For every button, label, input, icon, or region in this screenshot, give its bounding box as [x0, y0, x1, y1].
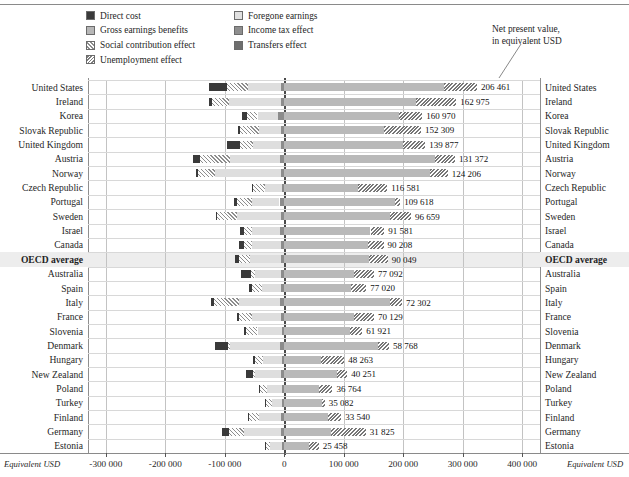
- bar-segment-social-contribution-effect: [249, 413, 259, 421]
- bar-segment-gross-earnings-benefits: [284, 141, 403, 149]
- bar-value-label: 25 458: [323, 442, 348, 451]
- chart-legend: Direct cost Gross earnings benefits Soci…: [86, 9, 506, 67]
- bar-segment-social-contribution-effect: [266, 442, 270, 450]
- bar-segment-direct-cost: [259, 385, 261, 393]
- country-label-right: Korea: [545, 111, 568, 121]
- axis-tick: [463, 453, 464, 457]
- axis-tick: [225, 453, 226, 457]
- row-separator: [88, 381, 540, 382]
- bar-segment-foregone-earnings: [272, 399, 282, 407]
- country-label-left: Czech Republic: [0, 183, 83, 193]
- country-label-left: Poland: [0, 384, 83, 394]
- country-label-right: Norway: [545, 169, 576, 179]
- bar-segment-social-contribution-effect: [260, 385, 267, 393]
- axis-tick-label: 400 000: [482, 459, 562, 469]
- bar-value-label: 91 581: [388, 227, 413, 236]
- bar-value-label: 40 251: [351, 370, 376, 379]
- bar-segment-foregone-earnings: [258, 327, 282, 335]
- bar-segment-direct-cost: [253, 356, 255, 364]
- bar-segment-unemployment-effect: [350, 327, 362, 335]
- bar-segment-social-contribution-effect: [252, 284, 263, 292]
- country-label-right: Germany: [545, 427, 581, 437]
- bar-segment-foregone-earnings: [239, 298, 280, 306]
- legend-label: Direct cost: [100, 11, 141, 21]
- bar-segment-unemployment-effect: [351, 284, 366, 292]
- top-divider: [0, 4, 629, 5]
- legend-item-social-contribution-effect: Social contribution effect: [86, 38, 195, 52]
- bar-value-label: 152 309: [425, 126, 454, 135]
- axis-tick: [165, 453, 166, 457]
- bar-segment-gross-earnings-benefits: [284, 126, 384, 134]
- country-label-right: France: [545, 312, 571, 322]
- country-label-right: Portugal: [545, 197, 578, 207]
- bar-segment-unemployment-effect: [435, 155, 455, 163]
- bar-segment-direct-cost: [227, 141, 239, 149]
- bar-segment-direct-cost: [209, 83, 226, 91]
- country-label-right: Denmark: [545, 341, 581, 351]
- bar-segment-unemployment-effect: [354, 270, 374, 278]
- bar-segment-foregone-earnings: [265, 184, 282, 192]
- chart-root: Direct cost Gross earnings benefits Soci…: [0, 0, 629, 477]
- row-separator: [88, 80, 540, 81]
- country-label-left: Turkey: [0, 398, 83, 408]
- bar-value-label: 70 129: [378, 313, 403, 322]
- bar-segment-direct-cost: [196, 169, 198, 177]
- bar-segment-social-contribution-effect: [266, 399, 271, 407]
- bar-segment-unemployment-effect: [337, 370, 348, 378]
- country-label-right: Australia: [545, 269, 580, 279]
- row-separator: [88, 324, 540, 325]
- bar-segment-direct-cost: [237, 313, 239, 321]
- country-label-left: Finland: [0, 413, 83, 423]
- country-label-right: Finland: [545, 413, 574, 423]
- bar-segment-unemployment-effect: [444, 83, 477, 91]
- row-separator: [88, 238, 540, 239]
- country-label-right: Spain: [545, 284, 567, 294]
- bar-segment-social-contribution-effect: [228, 342, 230, 350]
- bar-segment-social-contribution-effect: [227, 83, 248, 91]
- bar-segment-gross-earnings-benefits: [284, 112, 399, 120]
- row-separator: [88, 252, 540, 253]
- bar-segment-gross-earnings-benefits: [284, 212, 390, 220]
- bar-segment-direct-cost: [234, 198, 237, 206]
- bar-segment-direct-cost: [242, 112, 247, 120]
- bar-segment-social-contribution-effect: [253, 370, 255, 378]
- country-label-right: United States: [545, 83, 596, 93]
- country-label-left: Estonia: [0, 441, 83, 451]
- country-label-right: United Kingdom: [545, 140, 610, 150]
- bar-segment-foregone-earnings: [262, 284, 281, 292]
- bar-segment-gross-earnings-benefits: [284, 370, 336, 378]
- legend-item-direct-cost: Direct cost: [86, 9, 195, 23]
- bar-segment-social-contribution-effect: [244, 241, 252, 249]
- bar-segment-gross-earnings-benefits: [284, 169, 430, 177]
- bar-value-label: 58 768: [393, 342, 418, 351]
- bar-segment-social-contribution-effect: [200, 155, 230, 163]
- gross-earnings-benefits-swatch-icon: [86, 26, 95, 35]
- bar-segment-direct-cost: [265, 442, 266, 450]
- bar-segment-unemployment-effect: [328, 413, 342, 421]
- country-label-right: Czech Republic: [545, 183, 606, 193]
- country-label-left: OECD average: [0, 255, 83, 265]
- bar-segment-foregone-earnings: [252, 241, 281, 249]
- bar-segment-gross-earnings-benefits: [284, 255, 368, 263]
- bar-segment-foregone-earnings: [215, 169, 280, 177]
- bar-value-label: 48 263: [348, 356, 373, 365]
- bar-segment-gross-earnings-benefits: [284, 342, 378, 350]
- bar-segment-unemployment-effect: [378, 342, 389, 350]
- bar-segment-gross-earnings-benefits: [284, 327, 349, 335]
- bar-segment-unemployment-effect: [403, 141, 425, 149]
- country-label-left: Austria: [0, 154, 83, 164]
- bar-value-label: 109 618: [404, 198, 433, 207]
- bar-segment-gross-earnings-benefits: [284, 241, 367, 249]
- bar-segment-social-contribution-effect: [239, 255, 250, 263]
- country-label-left: New Zealand: [0, 370, 83, 380]
- bar-segment-foregone-earnings: [237, 212, 280, 220]
- row-separator: [88, 209, 540, 210]
- bar-segment-social-contribution-effect: [212, 98, 229, 106]
- row-separator: [88, 396, 540, 397]
- bar-segment-social-contribution-effect: [255, 356, 263, 364]
- country-label-right: Austria: [545, 154, 573, 164]
- country-label-left: Australia: [0, 269, 83, 279]
- country-label-right: OECD average: [545, 255, 607, 265]
- bar-segment-social-contribution-effect: [246, 327, 258, 335]
- row-separator: [88, 267, 540, 268]
